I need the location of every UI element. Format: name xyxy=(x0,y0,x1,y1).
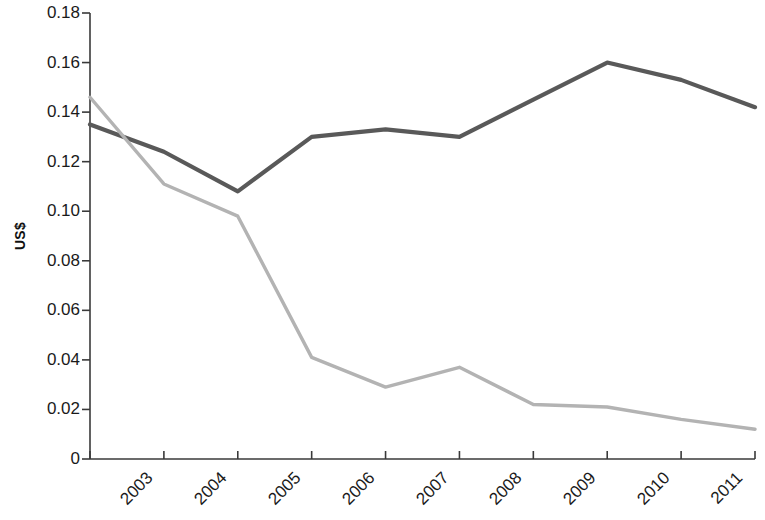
y-axis-ticks xyxy=(82,13,90,459)
x-axis-ticks xyxy=(90,451,755,459)
series-line-1 xyxy=(90,63,755,192)
axes xyxy=(82,13,755,459)
line-chart: US$ 00.020.040.060.080.100.120.140.160.1… xyxy=(0,0,765,520)
series-line-2 xyxy=(90,97,755,429)
plot-area xyxy=(0,0,765,520)
data-series-group xyxy=(90,63,755,430)
